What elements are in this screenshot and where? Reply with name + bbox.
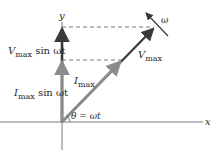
current-phasor-label: Imax bbox=[73, 75, 95, 89]
x-axis-label: x bbox=[205, 116, 211, 127]
current-projection-label: Imax sin ωt bbox=[13, 87, 68, 101]
phasor-diagram: y x ω Vmax Imax Vmax sin ωt Imax sin ωt … bbox=[0, 0, 214, 154]
omega-label: ω bbox=[161, 15, 169, 25]
angle-arc bbox=[68, 116, 70, 122]
voltage-phasor-label: Vmax bbox=[138, 49, 163, 63]
y-axis-label: y bbox=[58, 10, 65, 21]
voltage-projection-label: Vmax sin ωt bbox=[8, 45, 65, 59]
angle-label: θ = ωt bbox=[71, 111, 101, 121]
